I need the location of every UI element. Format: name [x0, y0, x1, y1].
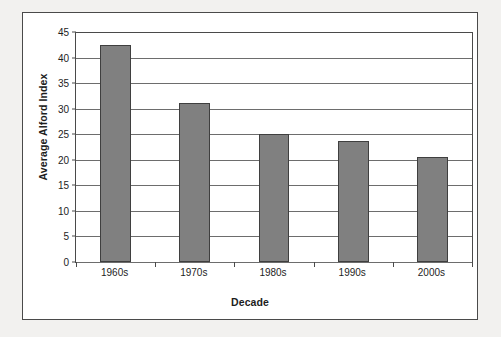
y-tick-label: 30 [58, 103, 69, 114]
x-tick-label-1980s: 1980s [233, 267, 312, 278]
bar-1960s[interactable] [100, 45, 131, 262]
x-tick-label-1970s: 1970s [154, 267, 233, 278]
y-tick-label: 40 [58, 52, 69, 63]
bar-2000s[interactable] [417, 157, 448, 262]
x-tick-label-1960s: 1960s [75, 267, 154, 278]
y-tick-label: 10 [58, 205, 69, 216]
y-tick-label: 25 [58, 129, 69, 140]
bar-1970s[interactable] [179, 103, 210, 262]
y-tick-label: 45 [58, 27, 69, 38]
y-tick-label: 20 [58, 154, 69, 165]
y-tick-label: 15 [58, 180, 69, 191]
bars-layer [76, 32, 472, 262]
x-tick-label-1990s: 1990s [313, 267, 392, 278]
x-tick-label-2000s: 2000s [392, 267, 471, 278]
y-tick-label: 0 [63, 257, 69, 268]
bar-1990s[interactable] [338, 141, 369, 262]
x-axis-category-labels: 1960s1970s1980s1990s2000s [75, 267, 471, 278]
y-axis-title: Average Alford Index [37, 47, 49, 207]
bar-slot [314, 32, 393, 262]
bar-1980s[interactable] [259, 134, 290, 262]
y-tick-label: 35 [58, 78, 69, 89]
x-axis-title: Decade [23, 296, 477, 308]
gridline [76, 262, 472, 263]
plot-area: 051015202530354045 [75, 32, 473, 263]
chart-frame: Average Alford Index 051015202530354045 … [22, 12, 478, 320]
bar-slot [155, 32, 234, 262]
bar-slot [234, 32, 313, 262]
figure-root: Average Alford Index 051015202530354045 … [0, 0, 501, 337]
y-tick-label: 5 [63, 231, 69, 242]
x-tick-mark [472, 262, 473, 267]
bar-slot [76, 32, 155, 262]
bar-slot [393, 32, 472, 262]
